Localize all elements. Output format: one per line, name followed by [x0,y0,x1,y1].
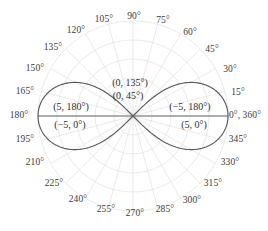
annotation-0-45: (0, 45°) [113,91,144,101]
annotation-neg5-180: (−5, 180°) [169,102,210,112]
angle-label-210: 210° [26,158,44,168]
grid-spoke [86,34,134,116]
angle-label-225: 225° [45,179,63,189]
annotation-5-0: (5, 0°) [181,120,207,130]
grid-spoke [133,24,158,116]
angle-label-180: 180° [10,111,28,121]
angle-label-75: 75° [156,16,170,26]
angle-label-255: 255° [97,205,115,215]
angle-label-195: 195° [16,135,34,145]
angle-label-60: 60° [183,28,197,38]
angle-label-135: 135° [44,43,62,53]
grid-spoke [133,116,181,198]
angle-label-330: 330° [221,158,239,168]
angle-label-15: 15° [231,88,245,98]
annotation-neg5-0: (−5, 0°) [54,120,85,130]
angle-label-240: 240° [69,195,87,205]
grid-spoke [108,116,133,208]
angle-label-0: 0°, 360° [229,111,261,121]
polar-chart-figure: 0°, 360° 15° 30° 45° 60° 75° 90° 105° 12… [0,0,268,231]
angle-label-150: 150° [26,64,44,74]
angle-label-120: 120° [67,26,85,36]
angle-label-285: 285° [156,205,174,215]
angle-label-45: 45° [205,45,219,55]
angle-label-300: 300° [183,196,201,206]
angle-label-30: 30° [223,65,237,75]
angle-label-90: 90° [127,12,141,22]
angle-label-165: 165° [16,87,34,97]
annotation-5-180: (5, 180°) [53,102,89,112]
angle-label-345: 345° [229,135,247,145]
polar-plot-canvas [0,0,268,231]
angle-label-105: 105° [95,15,113,25]
grid-spoke [133,116,225,141]
angle-label-270: 270° [126,209,144,219]
grid-spoke [133,116,158,208]
grid-spoke [86,116,134,198]
annotation-0-135: (0, 135°) [112,78,148,88]
grid-spoke [108,24,133,116]
angle-label-315: 315° [204,179,222,189]
